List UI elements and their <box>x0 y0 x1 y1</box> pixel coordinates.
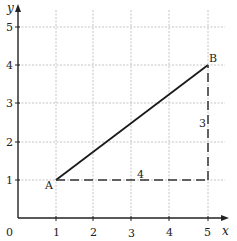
x-tick-label: 5 <box>204 226 211 239</box>
x-tick-label: 4 <box>166 226 173 239</box>
x-axis-label: x <box>222 224 229 238</box>
y-tick-label: 2 <box>6 136 13 149</box>
x-tick-label: 2 <box>90 226 97 239</box>
vertical-leg-label: 3 <box>199 117 206 130</box>
ticks <box>15 27 208 221</box>
x-tick-label: 3 <box>128 227 135 240</box>
segment-ab <box>56 65 208 180</box>
y-tick-label: 5 <box>6 21 13 34</box>
y-axis-arrow-icon <box>15 4 21 12</box>
y-axis-label: y <box>6 1 14 15</box>
coordinate-diagram: 1 2 3 4 5 0 5 4 3 2 1 x y A B 4 3 <box>0 0 237 241</box>
x-tick-label: 1 <box>53 226 60 239</box>
horizontal-leg-label: 4 <box>137 168 144 181</box>
point-b-label: B <box>209 52 217 65</box>
x-axis-arrow-icon <box>221 215 229 221</box>
y-tick-label: 4 <box>6 59 13 72</box>
point-a-label: A <box>44 179 54 192</box>
origin-label: 0 <box>6 226 13 239</box>
y-tick-label: 1 <box>6 174 13 187</box>
y-tick-label: 3 <box>6 97 13 110</box>
